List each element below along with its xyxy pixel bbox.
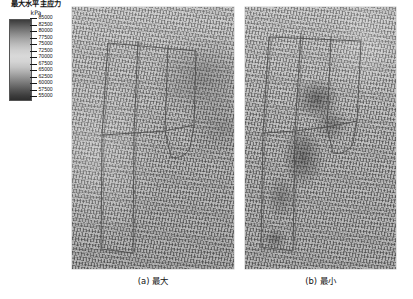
legend-title: 最大水平主应力 xyxy=(0,0,72,8)
wellbore-traces xyxy=(245,7,396,269)
tick-label: 65000 xyxy=(39,67,53,72)
contour-panel-a xyxy=(72,7,234,269)
colorbar-gradient-icon xyxy=(9,19,32,101)
tick-label: 55000 xyxy=(39,93,53,98)
legend-unit-label: kPa xyxy=(0,9,72,16)
tick-mark xyxy=(30,57,37,58)
tick-label: 80000 xyxy=(39,28,53,33)
tick-mark xyxy=(30,90,37,91)
tick-mark xyxy=(30,64,37,65)
tick-mark xyxy=(30,70,37,71)
tick-mark xyxy=(30,18,37,19)
tick-mark xyxy=(30,51,37,52)
tick-mark xyxy=(30,44,37,45)
panel-b-caption: (b) 最小 xyxy=(245,276,396,286)
tick-mark xyxy=(30,77,37,78)
tick-label: 75000 xyxy=(39,41,53,46)
tick-label: 60000 xyxy=(39,80,53,85)
panel-a-caption: (a) 最大 xyxy=(72,276,234,286)
stress-contour-figure: 最大水平主应力 kPa 85000 82500 80000 77500 xyxy=(0,0,413,299)
colorbar-legend: 最大水平主应力 kPa 85000 82500 80000 77500 xyxy=(0,0,72,105)
tick-label: 85000 xyxy=(39,15,53,20)
wellbore-traces xyxy=(72,7,234,269)
tick-mark xyxy=(30,25,37,26)
contour-panel-b xyxy=(245,7,396,269)
tick-label: 70000 xyxy=(39,54,53,59)
tick-mark xyxy=(30,31,37,32)
tick-mark xyxy=(30,96,37,97)
tick-mark xyxy=(30,83,37,84)
tick-mark xyxy=(30,38,37,39)
colorbar-wrap: 85000 82500 80000 77500 75000 72500 xyxy=(9,19,71,99)
